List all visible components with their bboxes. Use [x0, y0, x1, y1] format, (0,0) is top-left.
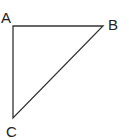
vertex-label-a: A: [1, 9, 11, 26]
triangle-diagram: A B C: [0, 0, 129, 140]
vertex-label-b: B: [108, 16, 118, 33]
triangle-abc: [13, 26, 103, 118]
vertex-label-c: C: [6, 123, 17, 140]
